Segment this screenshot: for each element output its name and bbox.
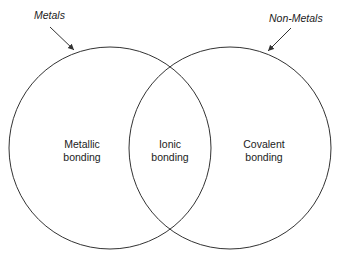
metallic-bonding-label: Metallic bonding [52, 138, 112, 164]
ionic-bonding-label: Ionic bonding [140, 138, 200, 164]
covalent-line1: Covalent [234, 138, 294, 151]
venn-diagram-svg [0, 0, 337, 258]
metals-arrow [50, 27, 74, 50]
non-metals-set-label: Non-Metals [269, 12, 323, 24]
metallic-line2: bonding [52, 151, 112, 164]
metallic-line1: Metallic [52, 138, 112, 151]
ionic-line1: Ionic [140, 138, 200, 151]
ionic-line2: bonding [140, 151, 200, 164]
covalent-line2: bonding [234, 151, 294, 164]
metals-set-label: Metals [34, 9, 65, 21]
covalent-bonding-label: Covalent bonding [234, 138, 294, 164]
non-metals-arrow [268, 28, 291, 51]
